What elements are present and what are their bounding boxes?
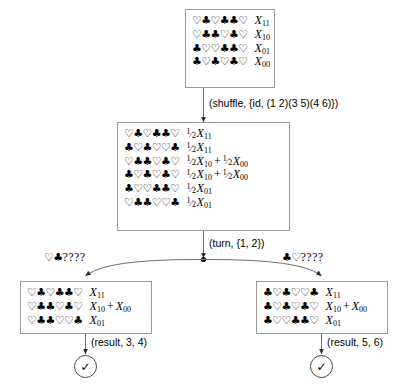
turn-edge-label: (turn, {1, 2}) — [209, 238, 264, 249]
right-state-box: ♣♡♣♡♡♣ X11 ♣♡♣♡♣♡ X10+X00 ♣♡♡♣♣♡ X01 — [256, 281, 388, 334]
row-value: X01 — [255, 42, 270, 56]
row-value: 1⁄2X11 — [187, 127, 212, 141]
card-sequence: ♣♡♣♡♣♡ — [263, 301, 319, 312]
row-value: 1⁄2X10+1⁄2X00 — [187, 155, 249, 169]
row-value: 1⁄2X10+1⁄2X00 — [187, 168, 249, 182]
state-row: ♡♣♡♣♣♡ X11 — [192, 14, 267, 28]
state-row: ♣♡♣♡♡♣ X11 — [263, 286, 380, 300]
state-row: ♣♡♣♡♣♡ X10+X00 — [263, 300, 380, 314]
card-sequence: ♣♡♣♡♡♣ — [263, 287, 319, 298]
card-sequence: ♣♡♡♣♣♡ — [263, 315, 319, 326]
state-row: ♣♡♡♣♣♡ 1⁄2X01 — [124, 182, 282, 196]
state-row: ♡♣♡♣♣♡ 1⁄2X11 — [124, 127, 282, 141]
state-row: ♡♣♣♡♣♡ X10 — [192, 28, 267, 42]
branch-unknown: ???? — [301, 250, 324, 264]
card-sequence: ♡♣♣♡♣♡ — [124, 156, 180, 167]
left-result-node: ✓ — [74, 355, 97, 378]
shuffled-state-box: ♡♣♡♣♣♡ 1⁄2X11 ♣♡♣♡♡♣ 1⁄2X11 ♡♣♣♡♣♡ 1⁄2X1… — [117, 122, 290, 231]
state-row: ♣♡♣♡♣♡ 1⁄2X10+1⁄2X00 — [124, 168, 282, 182]
edge-branch-left — [86, 260, 204, 277]
right-result-node: ✓ — [310, 355, 333, 378]
right-result-edge-label: (result, 5, 6) — [327, 337, 383, 348]
card-sequence: ♡♣♡♣♣♡ — [27, 287, 83, 298]
card-sequence: ♡♣♣♡♣♡ — [27, 301, 83, 312]
card-sequence: ♣♡♣♡♣♡ — [124, 169, 180, 180]
checkmark-icon: ✓ — [80, 360, 90, 372]
state-row: ♡♣♣♡♣♡ 1⁄2X10+1⁄2X00 — [124, 155, 282, 169]
row-value: X11 — [326, 286, 341, 300]
left-branch-label: ♡♣???? — [44, 248, 85, 264]
row-value: X11 — [255, 14, 270, 28]
card-sequence: ♡♣♣♡♣♡ — [192, 29, 248, 40]
branch-suits: ♡♣ — [44, 251, 63, 264]
shuffle-edge-label: (shuffle, {id, (1 2)(3 5)(4 6)}) — [209, 98, 338, 109]
card-sequence: ♡♣♡♣♣♡ — [124, 128, 180, 139]
row-value: 1⁄2X01 — [187, 182, 212, 196]
row-value: X10 — [255, 28, 270, 42]
card-sequence: ♣♡♡♣♣♡ — [192, 43, 248, 54]
left-result-edge-label: (result, 3, 4) — [91, 337, 147, 348]
card-sequence: ♣♡♣♡♡♣ — [124, 142, 180, 153]
state-row: ♣♡♡♣♣♡ X01 — [192, 42, 267, 56]
diagram-canvas: ♡♣♡♣♣♡ X11 ♡♣♣♡♣♡ X10 ♣♡♡♣♣♡ X01 ♣♡♣♡♣♡ … — [0, 0, 407, 392]
branch-suits: ♣♡ — [282, 251, 301, 264]
checkmark-icon: ✓ — [316, 360, 326, 372]
state-row: ♡♣♣♡♣♡ X10+X00 — [27, 300, 144, 314]
card-sequence: ♡♣♣♡♡♣ — [124, 197, 180, 208]
initial-state-box: ♡♣♡♣♣♡ X11 ♡♣♣♡♣♡ X10 ♣♡♡♣♣♡ X01 ♣♡♣♡♣♡ … — [185, 9, 275, 88]
left-state-box: ♡♣♡♣♣♡ X11 ♡♣♣♡♣♡ X10+X00 ♡♣♣♡♡♣ X01 — [20, 281, 152, 334]
state-row: ♡♣♣♡♡♣ 1⁄2X01 — [124, 196, 282, 210]
state-row: ♣♡♣♡♣♡ X00 — [192, 55, 267, 69]
row-value: X10+X00 — [90, 300, 131, 314]
row-value: X01 — [90, 314, 105, 328]
row-value: 1⁄2X11 — [187, 141, 212, 155]
row-value: X11 — [90, 286, 105, 300]
state-row: ♣♡♡♣♣♡ X01 — [263, 314, 380, 328]
card-sequence: ♣♡♣♡♣♡ — [192, 56, 248, 67]
state-row: ♣♡♣♡♡♣ 1⁄2X11 — [124, 141, 282, 155]
row-value: X00 — [255, 55, 270, 69]
row-value: X10+X00 — [326, 300, 367, 314]
branch-unknown: ???? — [63, 250, 86, 264]
row-value: X01 — [326, 314, 341, 328]
branch-junction-dot — [201, 257, 206, 262]
right-branch-label: ♣♡???? — [282, 248, 323, 264]
state-row: ♡♣♡♣♣♡ X11 — [27, 286, 144, 300]
state-row: ♡♣♣♡♡♣ X01 — [27, 314, 144, 328]
row-value: 1⁄2X01 — [187, 196, 212, 210]
card-sequence: ♣♡♡♣♣♡ — [124, 183, 180, 194]
card-sequence: ♡♣♡♣♣♡ — [192, 15, 248, 26]
card-sequence: ♡♣♣♡♡♣ — [27, 315, 83, 326]
